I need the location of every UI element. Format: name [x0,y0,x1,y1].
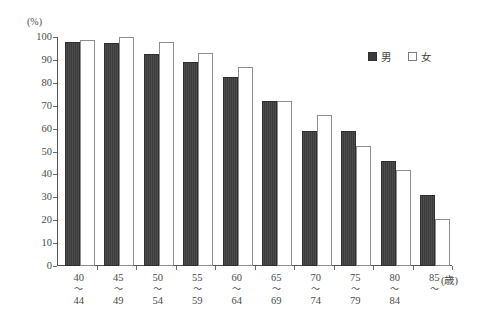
x-axis-tick-mark [373,266,374,270]
bar-group [300,37,332,266]
y-axis-tick-mark [53,220,57,221]
y-axis-tick-mark [53,129,57,130]
bar-male [223,77,238,266]
bar-female [198,53,213,266]
x-axis-tick-mark [255,266,256,270]
y-axis-tick-label: 60 [42,121,53,136]
bar-male [381,161,396,266]
x-axis-tick-mark [452,266,453,270]
y-axis-tick-label: 10 [42,235,53,250]
bar-male [104,43,119,266]
bar-female [356,146,371,266]
bar-male [144,54,159,266]
bar-male [341,131,356,266]
y-axis-tick-mark [53,243,57,244]
x-axis-tick-mark [294,266,295,270]
x-axis-tick-mark [176,266,177,270]
y-axis-tick-label: 90 [42,52,53,67]
bar-female [435,219,450,266]
bar-group [102,37,134,266]
chart-figure: (%) 0102030405060708090100 40〜4445〜4950〜… [0,0,479,316]
bar-female [80,40,95,266]
y-axis-tick-label: 40 [42,166,53,181]
bar-group [379,37,411,266]
y-axis-tick-mark [53,60,57,61]
y-axis-tick-label: 30 [42,189,53,204]
bar-group [181,37,213,266]
y-axis-tick-mark [53,266,57,267]
legend-item-female: 女 [408,49,431,64]
x-axis-tick-mark [97,266,98,270]
open-square-icon [408,52,417,61]
bar-group [260,37,292,266]
x-axis-tick-mark [413,266,414,270]
bar-female [396,170,411,266]
y-axis-tick-mark [53,174,57,175]
bar-group [63,37,95,266]
bar-female [238,67,253,266]
y-axis-tick-mark [53,106,57,107]
bar-male [183,62,198,266]
y-axis-tick-label: 0 [47,258,52,273]
y-axis-tick-mark [53,197,57,198]
bar-male [420,195,435,266]
bar-male [302,131,317,266]
y-axis-tick-label: 100 [36,29,52,44]
legend-label-female: 女 [421,49,431,64]
bar-male [262,101,277,266]
legend-item-male: 男 [368,49,391,64]
bar-group [418,37,450,266]
y-axis-unit-label: (%) [27,16,42,27]
bar-male [65,42,80,266]
y-axis-tick-mark [53,37,57,38]
x-axis-tick-mark [215,266,216,270]
chart-legend: 男 女 [368,49,431,64]
y-axis-tick-mark [53,83,57,84]
bar-female [277,101,292,266]
category-range-end [411,295,457,307]
legend-label-male: 男 [381,49,391,64]
x-axis-tick-mark [136,266,137,270]
bar-female [159,42,174,266]
filled-square-icon [368,52,377,61]
y-axis-tick-label: 80 [42,75,53,90]
plot-area: 0102030405060708090100 [57,37,452,266]
bar-group [339,37,371,266]
y-axis-tick-label: 20 [42,212,53,227]
y-axis-tick-label: 50 [42,144,53,159]
bar-group [221,37,253,266]
x-axis-unit-label: (歳) [441,272,458,287]
x-axis-tick-mark [334,266,335,270]
y-axis-tick-label: 70 [42,98,53,113]
bar-female [317,115,332,266]
y-axis-line [57,37,58,266]
y-axis-tick-mark [53,152,57,153]
bar-female [119,37,134,266]
bar-group [142,37,174,266]
